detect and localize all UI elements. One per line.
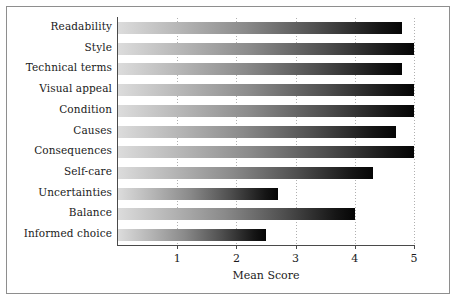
bar (118, 22, 402, 34)
x-tick-label: 1 (174, 252, 181, 265)
category-label: Uncertainties (38, 185, 112, 199)
category-label: Style (85, 40, 112, 54)
bar-row: Causes (118, 122, 414, 143)
gridline (414, 18, 415, 245)
x-tick-label: 4 (351, 252, 358, 265)
bar (118, 43, 414, 55)
category-label: Technical terms (26, 60, 112, 74)
bar (118, 167, 373, 179)
figure-container: ReadabilityStyleTechnical termsVisual ap… (0, 0, 458, 303)
category-label: Readability (51, 19, 112, 33)
bar (118, 188, 278, 200)
category-label: Informed choice (24, 226, 112, 240)
bar (118, 146, 414, 158)
category-label: Self-care (64, 164, 112, 178)
bar-row: Consequences (118, 142, 414, 163)
bar (118, 208, 355, 220)
bar-row: Style (118, 39, 414, 60)
bar-row: Balance (118, 204, 414, 225)
category-label: Causes (73, 123, 112, 137)
bar (118, 63, 402, 75)
bar-row: Self-care (118, 163, 414, 184)
x-tick-label: 5 (411, 252, 418, 265)
x-axis-title: Mean Score (118, 269, 414, 282)
x-tick-label: 2 (233, 252, 240, 265)
x-tick-mark (414, 245, 415, 249)
bar (118, 105, 414, 117)
bar-row: Technical terms (118, 59, 414, 80)
bar (118, 126, 396, 138)
plot-area: ReadabilityStyleTechnical termsVisual ap… (118, 18, 414, 245)
bar (118, 84, 414, 96)
x-tick-label: 3 (292, 252, 299, 265)
bar-row: Visual appeal (118, 80, 414, 101)
category-label: Balance (69, 205, 112, 219)
bar-row: Informed choice (118, 225, 414, 246)
bar-row: Uncertainties (118, 184, 414, 205)
bar (118, 229, 266, 241)
bar-row: Readability (118, 18, 414, 39)
bar-row: Condition (118, 101, 414, 122)
category-label: Condition (59, 102, 112, 116)
category-label: Visual appeal (39, 81, 112, 95)
category-label: Consequences (34, 143, 112, 157)
